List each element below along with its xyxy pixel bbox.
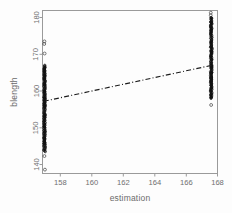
y-tick-label: 160	[32, 85, 41, 98]
x-tick-label: 160	[85, 178, 98, 187]
y-tick-label: 170	[32, 48, 41, 61]
x-tick-label: 158	[54, 178, 67, 187]
x-tick-label: 166	[180, 178, 193, 187]
x-tick-label: 162	[117, 178, 130, 187]
y-tick-label: 140	[32, 158, 41, 171]
y-axis-title: blength	[9, 77, 19, 106]
x-tick-label: 168	[211, 178, 224, 187]
scatter-plot-figure: 180 170 160 150 140 158 160 162 164 166 …	[0, 0, 232, 213]
plot-canvas: 180 170 160 150 140 158 160 162 164 166 …	[0, 0, 232, 213]
x-axis-title: estimation	[110, 193, 151, 203]
y-tick-label: 180	[32, 11, 41, 24]
x-tick-label: 164	[148, 178, 161, 187]
y-tick-label: 150	[32, 121, 41, 134]
